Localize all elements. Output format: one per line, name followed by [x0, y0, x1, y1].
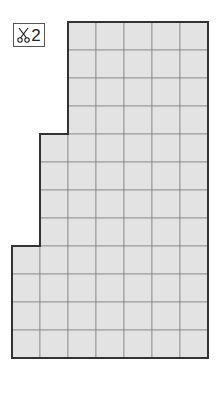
- grid-cell: [124, 162, 152, 190]
- grid-cell: [152, 190, 180, 218]
- grid-cell: [96, 190, 124, 218]
- grid-cell: [68, 134, 96, 162]
- grid-cell: [152, 302, 180, 330]
- grid-cell: [124, 274, 152, 302]
- grid-cell: [96, 106, 124, 134]
- grid-cell: [124, 78, 152, 106]
- grid-cell: [180, 246, 208, 274]
- grid-cell: [152, 22, 180, 50]
- grid-cell: [180, 330, 208, 358]
- grid-cell: [12, 330, 40, 358]
- grid-cell: [96, 50, 124, 78]
- grid-cell: [124, 134, 152, 162]
- grid-cell: [152, 330, 180, 358]
- grid-cell: [96, 22, 124, 50]
- grid-cell: [68, 190, 96, 218]
- grid-cell: [124, 190, 152, 218]
- grid-cell: [124, 50, 152, 78]
- grid-cell: [180, 218, 208, 246]
- grid-cell: [68, 274, 96, 302]
- grid-cell: [180, 274, 208, 302]
- grid-cell: [180, 22, 208, 50]
- grid-cell: [152, 50, 180, 78]
- grid-cell: [124, 22, 152, 50]
- grid-cell: [96, 246, 124, 274]
- grid-cell: [68, 78, 96, 106]
- grid-cell: [96, 218, 124, 246]
- grid-cell: [96, 330, 124, 358]
- grid-cell: [152, 246, 180, 274]
- grid-cell: [68, 22, 96, 50]
- grid-cell: [152, 274, 180, 302]
- grid-cell: [68, 218, 96, 246]
- grid-cell: [68, 246, 96, 274]
- grid-shape: [0, 0, 222, 393]
- grid-cell: [152, 218, 180, 246]
- grid-cell: [180, 302, 208, 330]
- grid-cell: [96, 274, 124, 302]
- grid-cell: [180, 162, 208, 190]
- grid-cell: [68, 106, 96, 134]
- grid-cell: [40, 162, 68, 190]
- grid-cell: [12, 246, 40, 274]
- grid-cell: [124, 218, 152, 246]
- grid-cell: [124, 246, 152, 274]
- grid-cell: [68, 330, 96, 358]
- grid-cell: [124, 106, 152, 134]
- grid-cell: [40, 274, 68, 302]
- grid-cell: [12, 274, 40, 302]
- grid-cell: [40, 190, 68, 218]
- grid-cell: [96, 78, 124, 106]
- grid-cell: [152, 162, 180, 190]
- grid-cell: [152, 78, 180, 106]
- grid-cell: [124, 330, 152, 358]
- grid-cell: [40, 302, 68, 330]
- grid-cell: [180, 190, 208, 218]
- grid-cell: [40, 246, 68, 274]
- grid-cell: [68, 162, 96, 190]
- grid-cell: [180, 50, 208, 78]
- grid-cell: [40, 218, 68, 246]
- grid-cell: [68, 50, 96, 78]
- grid-cell: [68, 302, 96, 330]
- grid-cell: [180, 106, 208, 134]
- grid-cell: [124, 302, 152, 330]
- grid-cell: [40, 134, 68, 162]
- grid-cell: [96, 134, 124, 162]
- grid-cell: [12, 302, 40, 330]
- grid-cell: [96, 162, 124, 190]
- grid-cell: [180, 134, 208, 162]
- grid-cell: [152, 106, 180, 134]
- grid-cell: [180, 78, 208, 106]
- grid-cell: [40, 330, 68, 358]
- grid-cell: [152, 134, 180, 162]
- grid-cell: [96, 302, 124, 330]
